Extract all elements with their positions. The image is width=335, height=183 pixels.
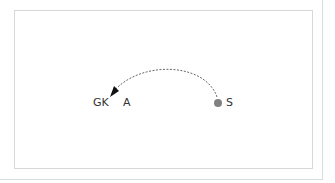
pass-arrow-path — [113, 69, 217, 97]
ball-icon — [214, 99, 222, 107]
player-label-gk: GK — [93, 97, 109, 109]
pass-diagram — [0, 0, 335, 183]
arrowhead-icon — [110, 86, 119, 97]
player-label-a: A — [123, 97, 131, 109]
player-label-s: S — [226, 97, 233, 109]
